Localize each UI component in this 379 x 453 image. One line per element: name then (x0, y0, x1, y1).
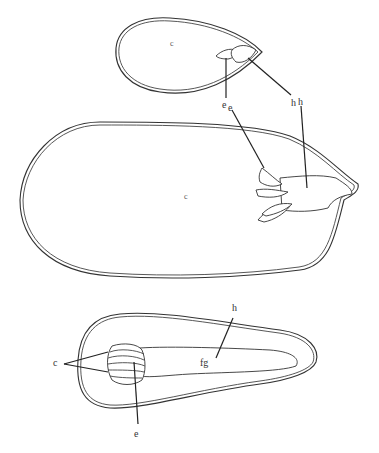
middle-seed-label-h: h (298, 97, 303, 107)
bottom-seed-cotyledon-leader-upper (64, 352, 108, 364)
bottom-seed-label-e: e (134, 429, 138, 439)
top-seed-hypocotyl (231, 46, 256, 63)
diagram-drawing (0, 0, 379, 453)
middle-seed-embryo-upper (259, 168, 282, 186)
middle-seed-label-c: c (184, 193, 188, 201)
seed-diagram: c e h c e h c e h fg (0, 0, 379, 453)
bottom-seed-cotyledon-leader-lower (64, 364, 108, 372)
middle-seed (20, 106, 358, 278)
top-seed-label-h: h (291, 98, 296, 108)
top-seed-label-e: e (222, 100, 226, 110)
middle-seed-embryo-leader (232, 110, 264, 168)
middle-seed-hypocotyl (280, 176, 352, 212)
bottom-seed (64, 313, 317, 424)
top-seed-hypocotyl-leader (248, 58, 291, 95)
bottom-seed-label-h: h (232, 303, 237, 313)
top-seed-label-c: c (170, 40, 174, 48)
bottom-seed-label-c: c (53, 358, 57, 368)
top-seed (116, 18, 291, 98)
bottom-seed-label-fg: fg (200, 358, 208, 368)
middle-seed-label-e: e (228, 103, 232, 113)
bottom-seed-embryo (108, 344, 146, 385)
